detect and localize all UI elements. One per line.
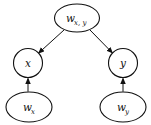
edge-wxy-to-y xyxy=(90,30,112,53)
node-w-x: w x xyxy=(6,92,52,122)
node-w-xy-subscript: x, y xyxy=(74,19,87,27)
node-x-label: x xyxy=(25,57,31,69)
node-x: x xyxy=(14,49,43,78)
diagram-canvas: w x, y x y w x w y xyxy=(0,0,151,125)
edge-wxy-to-x xyxy=(39,30,64,53)
node-y-label: y xyxy=(119,57,127,69)
node-y: y xyxy=(109,49,138,78)
graphical-model-diagram: w x, y x y w x w y xyxy=(0,0,151,125)
node-w-y: w y xyxy=(100,92,146,122)
node-w-x-subscript: x xyxy=(31,108,35,116)
node-w-xy: w x, y xyxy=(55,4,100,32)
